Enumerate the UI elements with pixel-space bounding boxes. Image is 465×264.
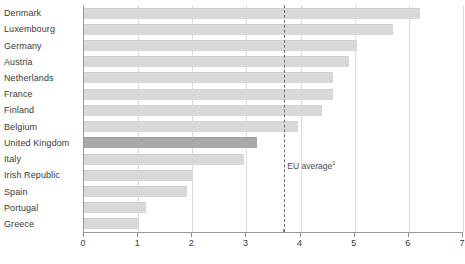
tick-label: 5 [351,238,356,248]
tick-label: 3 [243,238,248,248]
bar-row [84,200,463,216]
bar [84,105,322,116]
bar [84,24,393,35]
eu-average-footnote-marker: 1 [332,160,335,166]
bar-row [84,151,463,167]
tick-mark [191,233,192,237]
tick-mark [408,233,409,237]
bar-row [84,183,463,199]
tick-mark [137,233,138,237]
plot-area: EU average1 [83,5,463,233]
tick-label: 2 [189,238,194,248]
tick-mark [462,233,463,237]
bar-row [84,21,463,37]
eu-average-tick-mark [283,229,284,233]
category-label: France [0,86,79,102]
bar-row [84,102,463,118]
category-label: Irish Republic [0,167,79,183]
bar-row [84,70,463,86]
bar-row [84,167,463,183]
tick-mark [83,233,84,237]
tick-label: 0 [80,238,85,248]
tick-mark [300,233,301,237]
bar [84,137,257,148]
bar [84,8,420,19]
bar [84,56,349,67]
bar [84,154,244,165]
tick-label: 6 [405,238,410,248]
tick-mark [354,233,355,237]
category-label: Belgium [0,119,79,135]
category-label: Portugal [0,200,79,216]
bar [84,89,333,100]
category-label: Finland [0,102,79,118]
gridline [463,5,464,232]
bar [84,40,357,51]
category-label: Luxembourg [0,21,79,37]
category-label: Spain [0,183,79,199]
bar-row [84,54,463,70]
category-label: Germany [0,37,79,53]
category-label: United Kingdom [0,135,79,151]
category-label: Greece [0,216,79,232]
bar [84,218,138,229]
category-label: Italy [0,151,79,167]
bar [84,72,333,83]
bar-row [84,119,463,135]
bar [84,186,187,197]
category-label: Austria [0,54,79,70]
bar [84,170,192,181]
bar-row [84,5,463,21]
value-axis: 01234567 [83,233,462,259]
bar [84,202,146,213]
bar-chart: DenmarkLuxembourgGermanyAustriaNetherlan… [0,0,465,264]
tick-label: 1 [135,238,140,248]
tick-mark [245,233,246,237]
category-label: Denmark [0,5,79,21]
bar-row [84,37,463,53]
tick-label: 4 [297,238,302,248]
category-axis: DenmarkLuxembourgGermanyAustriaNetherlan… [0,5,79,232]
bar-row [84,135,463,151]
bar-row [84,86,463,102]
category-label: Netherlands [0,70,79,86]
eu-average-annotation-label: EU average1 [284,160,335,171]
bar [84,121,298,132]
bar-row [84,216,463,232]
bar-series [84,5,463,232]
tick-label: 7 [459,238,464,248]
